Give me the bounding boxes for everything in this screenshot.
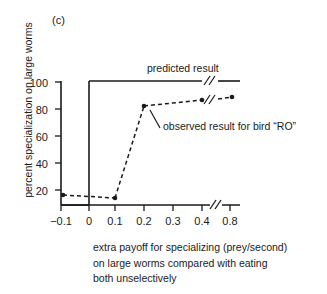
data-point-marker: [142, 104, 147, 109]
y-tick-marks: [55, 82, 61, 190]
x-axis-caption: extra payoff for specializing (prey/seco…: [93, 240, 327, 287]
x-axis-caption-line-3: both unselectively: [93, 271, 327, 287]
observed-annotation-leader: [150, 110, 160, 128]
data-point-marker: [200, 98, 205, 103]
data-point-marker: [230, 95, 235, 100]
data-point-marker: [61, 193, 66, 198]
series-observed-break-gap: [203, 99, 217, 100]
figure-panel-c: (c) percent specialization on large worm…: [0, 0, 327, 294]
x-tick-marks: [61, 205, 230, 211]
x-axis-caption-line-1: extra payoff for specializing (prey/seco…: [93, 240, 327, 256]
series-observed-markers: [61, 95, 235, 201]
x-axis-caption-line-2: on large worms compared with eating: [93, 256, 327, 272]
data-point-marker: [113, 196, 118, 201]
